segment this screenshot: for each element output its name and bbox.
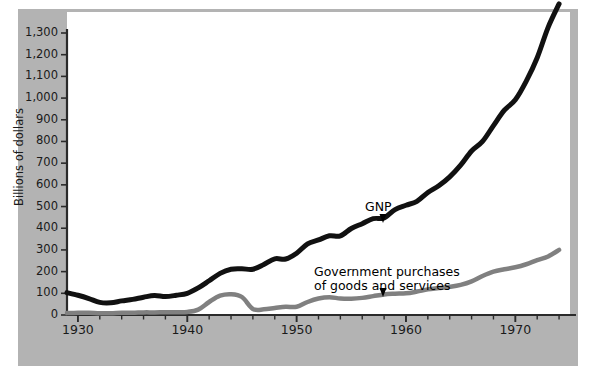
x-tick-label: 1950 xyxy=(274,323,320,336)
y-tick-label: 1,100 xyxy=(14,70,58,81)
y-tick-label: 0 xyxy=(14,309,58,320)
y-tick-label: 1,200 xyxy=(14,49,58,60)
annotation-gov-line2: of goods and services xyxy=(314,279,450,293)
annotation-gnp: GNP xyxy=(365,200,392,214)
y-tick-label: 400 xyxy=(14,222,58,233)
series-line-gnp xyxy=(67,4,559,303)
x-tick-label: 1970 xyxy=(492,323,538,336)
y-axis-title: Billions of dollars xyxy=(12,102,26,212)
chart-figure: 01002003004005006007008009001,0001,1001,… xyxy=(0,0,591,385)
annotation-gov-line1: Government purchases xyxy=(314,265,460,279)
y-tick-label: 1,300 xyxy=(14,27,58,38)
x-tick-label: 1940 xyxy=(164,323,210,336)
y-tick-label: 200 xyxy=(14,266,58,277)
y-tick-label: 100 xyxy=(14,287,58,298)
x-tick-label: 1960 xyxy=(383,323,429,336)
y-tick-label: 300 xyxy=(14,244,58,255)
x-tick-label: 1930 xyxy=(55,323,101,336)
